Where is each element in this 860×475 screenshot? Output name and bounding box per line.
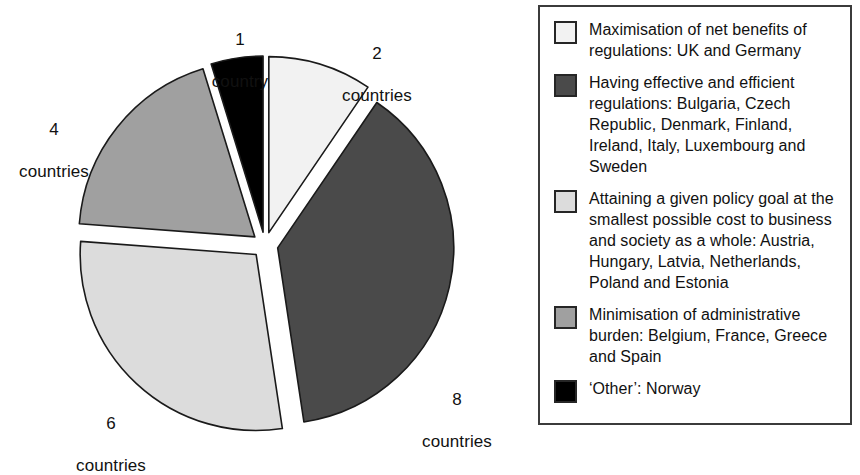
legend-item[interactable]: Having effective and efficient regulatio…: [554, 72, 844, 177]
slice-label-unit: countries: [318, 85, 436, 106]
slice-label-count: 6: [55, 413, 167, 434]
legend-box: Maximisation of net benefits of regulati…: [538, 5, 852, 425]
slice-label-count: 8: [398, 389, 516, 410]
slice-label-unit: countries: [0, 161, 110, 182]
slice-label-count: 4: [0, 119, 110, 140]
legend-item[interactable]: Attaining a given policy goal at the sma…: [554, 188, 844, 293]
slice-label-1-country: 1 country: [186, 8, 294, 113]
legend-item-label: ‘Other’: Norway: [589, 378, 701, 399]
slice-label-2-countries: 2 countries: [318, 22, 436, 127]
slice-label-count: 2: [318, 43, 436, 64]
slice-label-unit: countries: [55, 455, 167, 475]
legend-item[interactable]: Minimisation of administrative burden: B…: [554, 304, 844, 367]
legend-item-label: Minimisation of administrative burden: B…: [589, 304, 841, 367]
legend-swatch-icon: [554, 190, 577, 213]
legend-item-label: Having effective and efficient regulatio…: [589, 72, 841, 177]
legend-item-label: Attaining a given policy goal at the sma…: [589, 188, 841, 293]
legend-swatch-icon: [554, 306, 577, 329]
slice-label-unit: country: [186, 71, 294, 92]
slice-label-unit: countries: [398, 431, 516, 452]
legend-item-label: Maximisation of net benefits of regulati…: [589, 19, 841, 61]
slice-label-count: 1: [186, 29, 294, 50]
slice-label-6-countries: 6 countries: [55, 392, 167, 475]
slice-label-8-countries: 8 countries: [398, 368, 516, 473]
legend-item[interactable]: Maximisation of net benefits of regulati…: [554, 19, 844, 61]
legend-swatch-icon: [554, 74, 577, 97]
legend-item[interactable]: ‘Other’: Norway: [554, 378, 844, 403]
legend-swatch-icon: [554, 380, 577, 403]
slice-label-4-countries: 4 countries: [0, 98, 110, 203]
pie-chart-area: 2 countries 8 countries 6 countries 4 co…: [0, 0, 530, 443]
legend-list: Maximisation of net benefits of regulati…: [554, 19, 844, 414]
legend-swatch-icon: [554, 21, 577, 44]
